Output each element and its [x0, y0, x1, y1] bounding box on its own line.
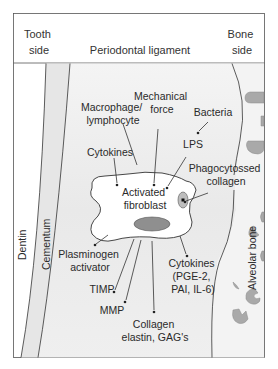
- diagram-canvas: Tooth side Periodontal ligament Bone sid…: [0, 0, 278, 369]
- alveolar-bone-label: Alveolar bone: [246, 226, 258, 290]
- lps-label: LPS: [183, 138, 203, 150]
- cytokines-output-label: Cytokines (PGE-2, PAI, IL-6): [168, 257, 217, 295]
- mmp-label: MMP: [100, 304, 125, 316]
- nucleus: [134, 217, 170, 231]
- periodontal-ligament-label: Periodontal ligament: [90, 44, 190, 56]
- cytokines-input-label: Cytokines: [87, 146, 133, 158]
- dentin-label: Dentin: [16, 229, 28, 260]
- activated-fibroblast-label: Activated fibroblast: [122, 186, 168, 211]
- cementum-label: Cementum: [40, 218, 52, 270]
- timp-label: TIMP: [89, 283, 114, 295]
- macrophage-lymphocyte-label: Macrophage/ lymphocyte: [81, 101, 145, 126]
- bacteria-label: Bacteria: [194, 106, 233, 118]
- phagocytosed-collagen-particle: [182, 199, 185, 202]
